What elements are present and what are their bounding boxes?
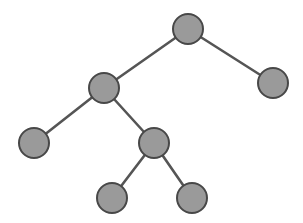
tree-node[interactable] [173, 14, 203, 44]
tree-node-circle[interactable] [19, 128, 49, 158]
binary-tree-figure [0, 0, 303, 223]
tree-node-circle[interactable] [173, 14, 203, 44]
tree-node-circle[interactable] [177, 183, 207, 213]
tree-node[interactable] [139, 128, 169, 158]
tree-node[interactable] [177, 183, 207, 213]
tree-node-layer [19, 14, 288, 213]
tree-node-circle[interactable] [139, 128, 169, 158]
tree-node[interactable] [89, 73, 119, 103]
tree-canvas [0, 0, 303, 223]
tree-node-circle[interactable] [97, 183, 127, 213]
tree-node[interactable] [258, 68, 288, 98]
tree-node-circle[interactable] [89, 73, 119, 103]
tree-edge-layer [34, 29, 273, 198]
tree-node[interactable] [19, 128, 49, 158]
tree-node-circle[interactable] [258, 68, 288, 98]
tree-node[interactable] [97, 183, 127, 213]
